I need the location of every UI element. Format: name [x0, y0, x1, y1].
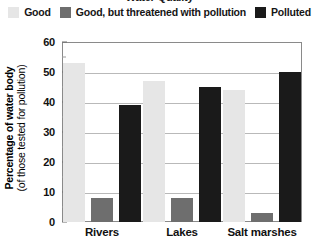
bar[interactable] — [143, 81, 165, 222]
legend-item-polluted: Polluted — [255, 6, 311, 18]
bars-layer — [62, 42, 302, 222]
bar[interactable] — [223, 90, 245, 222]
chart-title-remnant: Water Quality — [0, 0, 319, 3]
bar-group — [62, 42, 142, 222]
y-axis-label: Percentage of water body (of those teste… — [0, 30, 30, 226]
y-tick-label: 30 — [43, 126, 55, 138]
x-tick-label: Lakes — [166, 226, 198, 238]
legend-swatch-threatened — [60, 7, 71, 18]
y-tick-label: 50 — [43, 66, 55, 78]
y-axis-label-main: Percentage of water body — [3, 30, 15, 226]
x-tick-label: Salt marshes — [227, 226, 296, 238]
y-axis-label-sub: (of those tested for pollution) — [15, 30, 27, 226]
legend-label-threatened: Good, but threatened with pollution — [76, 6, 246, 18]
y-tick-label: 0 — [49, 216, 55, 228]
legend-swatch-good — [8, 7, 19, 18]
legend-label-good: Good — [24, 6, 51, 18]
bar[interactable] — [171, 198, 193, 222]
y-tick-label: 40 — [43, 96, 55, 108]
x-axis-tick-labels: RiversLakesSalt marshes — [62, 226, 302, 246]
bar[interactable] — [63, 63, 85, 222]
bar[interactable] — [91, 198, 113, 222]
bar-group — [222, 42, 302, 222]
bar[interactable] — [251, 213, 273, 222]
y-tick-label: 20 — [43, 156, 55, 168]
bar-group — [142, 42, 222, 222]
bar-chart: Water Quality Good Good, but threatened … — [0, 0, 319, 248]
chart-title-text: Water Quality — [126, 0, 194, 3]
legend-label-polluted: Polluted — [271, 6, 311, 18]
x-tick-label: Rivers — [85, 226, 119, 238]
y-tick-label: 60 — [43, 36, 55, 48]
legend-item-threatened: Good, but threatened with pollution — [60, 6, 246, 18]
y-axis-tick-labels: 0102030405060 — [28, 42, 59, 222]
bar[interactable] — [199, 87, 221, 222]
chart-legend: Good Good, but threatened with pollution… — [0, 4, 319, 20]
bar[interactable] — [119, 105, 141, 222]
legend-swatch-polluted — [255, 7, 266, 18]
legend-item-good: Good — [8, 6, 51, 18]
y-tick-label: 10 — [43, 186, 55, 198]
bar[interactable] — [279, 72, 301, 222]
